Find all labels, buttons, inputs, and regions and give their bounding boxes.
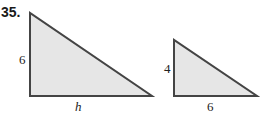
small-triangle bbox=[174, 40, 257, 96]
large-triangle-vertical-label: 6 bbox=[19, 52, 26, 67]
small-triangle-horizontal-label: 6 bbox=[207, 99, 214, 114]
large-triangle-horizontal-label: h bbox=[75, 99, 82, 114]
small-triangle-vertical-label: 4 bbox=[164, 61, 171, 76]
large-triangle bbox=[30, 13, 152, 96]
similar-triangles-figure: 6 h 4 6 bbox=[0, 0, 264, 117]
